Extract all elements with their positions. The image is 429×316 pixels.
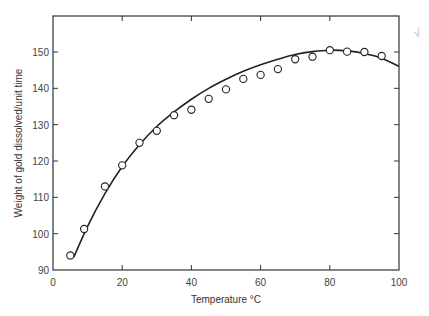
data-point (274, 65, 281, 72)
data-point (309, 53, 316, 60)
x-tick-label: 80 (324, 277, 336, 288)
data-point (153, 127, 160, 134)
data-point (292, 56, 299, 63)
data-point (257, 71, 264, 78)
data-point (344, 48, 351, 55)
data-point (378, 52, 385, 59)
data-point (171, 112, 178, 119)
y-tick-label: 110 (33, 192, 49, 203)
data-point (67, 252, 74, 259)
data-point (188, 106, 195, 113)
y-tick-label: 90 (38, 265, 50, 276)
data-point (361, 48, 368, 55)
x-tick-label: 0 (50, 277, 56, 288)
check-mark-annotation: √ (412, 25, 422, 40)
x-tick-label: 60 (255, 277, 267, 288)
y-tick-label: 150 (32, 47, 49, 58)
y-tick-label: 120 (32, 156, 49, 167)
data-point (136, 139, 143, 146)
y-tick-label: 100 (32, 229, 49, 240)
x-axis: 020406080100 (50, 16, 408, 288)
x-tick-label: 40 (186, 277, 198, 288)
y-axis-title: Weight of gold dissolved/unit time (13, 68, 24, 217)
y-tick-label: 140 (32, 83, 49, 94)
y-tick-label: 130 (32, 120, 49, 131)
data-point (326, 47, 333, 54)
x-axis-title: Temperature °C (191, 294, 261, 305)
data-point (240, 75, 247, 82)
data-point (205, 95, 212, 102)
data-point (222, 86, 229, 93)
x-tick-label: 100 (391, 277, 408, 288)
data-point (119, 162, 126, 169)
data-point (81, 225, 88, 232)
chart: 020406080100 90100110120130140150 Temper… (0, 0, 429, 316)
data-point (101, 183, 108, 190)
x-tick-label: 20 (117, 277, 129, 288)
fitted-curve (74, 50, 399, 257)
y-axis: 90100110120130140150 (32, 47, 399, 276)
